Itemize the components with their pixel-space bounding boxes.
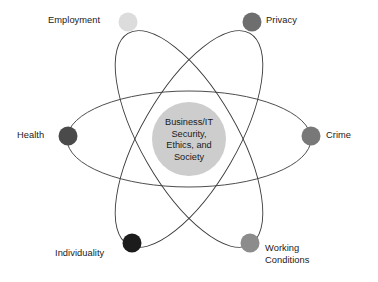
atom-diagram-canvas: Business/IT Security, Ethics, and Societ… [0,0,378,282]
node-dot-working-conditions[interactable] [241,234,260,253]
atom-diagram: Business/IT Security, Ethics, and Societ… [0,0,378,282]
node-dot-crime[interactable] [302,127,321,146]
center-caption-line-3: Ethics, and [166,140,211,150]
center-caption-line-2: Security, [171,129,206,139]
center-nucleus-circle [152,102,226,176]
center-caption-line-1: Business/IT [165,117,213,127]
node-dot-privacy[interactable] [243,13,262,32]
node-label-working-conditions-line-2: Conditions [265,255,309,267]
node-label-crime: Crime [326,130,351,142]
node-dot-individuality[interactable] [123,234,142,253]
node-label-privacy: Privacy [266,15,297,27]
node-label-working-conditions-line-1: Working [265,243,309,255]
node-label-employment: Employment [48,15,100,27]
node-label-health: Health [17,130,44,142]
node-dot-employment[interactable] [119,13,138,32]
node-label-individuality: Individuality [55,248,104,260]
center-caption-line-4: Society [174,152,205,162]
node-label-working-conditions: Working Conditions [265,243,309,266]
node-dot-health[interactable] [59,127,78,146]
